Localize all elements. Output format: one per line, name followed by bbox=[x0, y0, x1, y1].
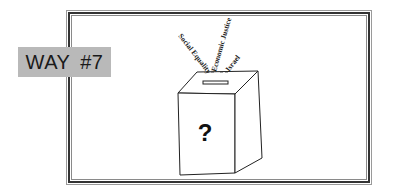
ballot-box-illustration: ? Social Equality Economic Justice Israe… bbox=[0, 0, 394, 194]
ballot-slot bbox=[203, 81, 228, 84]
way-label-text: WAY #7 bbox=[26, 51, 104, 74]
ballot-box bbox=[178, 71, 262, 175]
issue-social-equality: Social Equality bbox=[176, 32, 213, 76]
way-label: WAY #7 bbox=[18, 47, 111, 77]
issue-israel: Israel bbox=[223, 53, 241, 73]
question-mark: ? bbox=[198, 119, 213, 146]
